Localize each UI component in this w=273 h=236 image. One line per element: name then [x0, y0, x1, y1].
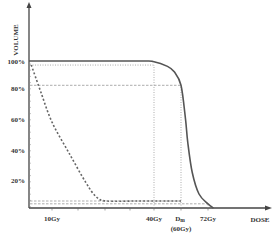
x-tick-label: 40Gy: [146, 215, 162, 223]
axes: [27, 2, 273, 211]
y-tick-label: 100%: [8, 58, 26, 66]
x-axis-arrow-icon: [265, 206, 272, 211]
x-axis-label: DOSE: [250, 216, 269, 224]
y-tick-label: 20%: [11, 177, 25, 185]
y-tick-label: 60%: [11, 116, 25, 124]
x-tick-sublabel: (60Gy): [171, 225, 192, 233]
series-solid-dvh: [29, 61, 214, 208]
x-tick-labels: 10Gy40GyDm(60Gy)72Gy: [44, 215, 216, 233]
y-axis-label: VOLUME: [12, 24, 20, 56]
y-tick-labels: 100%80%60%40%20%: [8, 58, 26, 185]
dvh-chart: 100%80%60%40%20% 10Gy40GyDm(60Gy)72Gy VO…: [0, 0, 273, 236]
x-tick-label: Dm: [175, 215, 185, 223]
x-tick-label: 72Gy: [200, 215, 216, 223]
y-tick-label: 40%: [11, 147, 25, 155]
y-axis-arrow-icon: [27, 2, 32, 8]
series-group: [29, 61, 214, 208]
x-tick-label: 10Gy: [44, 215, 60, 223]
y-tick-label: 80%: [11, 85, 25, 93]
